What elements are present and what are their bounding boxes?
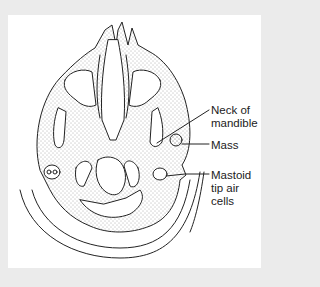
left-mastoid xyxy=(44,165,60,179)
label-line: cells xyxy=(211,195,251,208)
label-line: Neck of xyxy=(211,104,258,117)
label-neck-of-mandible: Neck of mandible xyxy=(211,104,258,130)
label-mastoid-tip-air-cells: Mastoid tip air cells xyxy=(211,169,251,208)
label-line: Mastoid xyxy=(211,169,251,182)
nasal-septum xyxy=(101,40,124,140)
label-mass: Mass xyxy=(211,139,238,152)
label-line: tip air xyxy=(211,182,251,195)
label-line: Mass xyxy=(211,139,238,152)
right-mastoid xyxy=(153,168,167,180)
label-line: mandible xyxy=(211,117,258,130)
mass-lesion xyxy=(170,134,182,146)
